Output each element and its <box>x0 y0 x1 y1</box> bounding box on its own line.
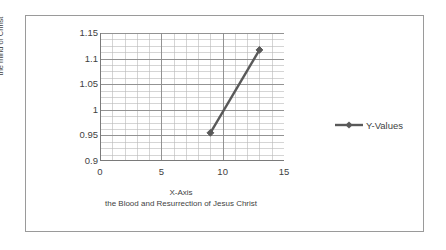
chart-screenshot: 0.90.9511.051.11.15 051015 Y-Axis the mi… <box>0 0 446 250</box>
plot-area <box>100 33 284 161</box>
y-tick-label: 1.05 <box>64 79 98 89</box>
x-axis-title-line1: X-Axis <box>56 187 306 198</box>
y-axis-title-line2: the mind of Christ <box>0 17 6 76</box>
y-tick-label: 1 <box>64 105 98 115</box>
chart-frame: 0.90.9511.051.11.15 051015 Y-Axis the mi… <box>25 15 424 232</box>
legend-label: Y-Values <box>366 120 403 131</box>
chart-legend: Y-Values <box>334 119 403 131</box>
x-tick-label: 10 <box>208 166 238 177</box>
y-tick-label: 1.1 <box>64 54 98 64</box>
x-axis-tick-labels: 051015 <box>100 166 284 180</box>
y-tick-label: 0.95 <box>64 130 98 140</box>
x-axis-title-line2: the Blood and Resurrection of Jesus Chri… <box>56 198 306 209</box>
plot-svg <box>100 33 284 161</box>
x-tick-label: 15 <box>269 166 299 177</box>
x-tick-label: 5 <box>146 166 176 177</box>
legend-marker-icon <box>334 119 364 131</box>
y-axis-tick-labels: 0.90.9511.051.11.15 <box>62 33 98 161</box>
x-tick-label: 0 <box>85 166 115 177</box>
x-axis-title: X-Axis the Blood and Resurrection of Jes… <box>56 187 306 209</box>
y-tick-label: 0.9 <box>64 156 98 166</box>
y-tick-label: 1.15 <box>64 28 98 38</box>
y-axis-title: Y-Axis the mind of Christ <box>0 0 9 110</box>
